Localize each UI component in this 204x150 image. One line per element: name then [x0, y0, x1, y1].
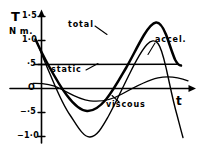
- curve-label-total: total: [68, 21, 94, 29]
- curve-label-viscous: viscous: [106, 101, 146, 109]
- y-tick-label-0p5: ·5: [27, 60, 36, 68]
- curve-label-accel: accel.: [155, 36, 187, 44]
- leader-accel: [148, 43, 155, 55]
- leader-total: [95, 26, 107, 35]
- y-axis-title: T: [11, 10, 20, 23]
- arrow-up-icon: [38, 10, 44, 17]
- torque-vs-time-chart: T N m. t 1·5 1·0 ·5 O −·5 −1·0 total acc…: [0, 0, 204, 150]
- y-tick-label-0: O: [28, 84, 35, 92]
- curve-label-static: static: [51, 66, 82, 74]
- arrow-right-icon: [189, 85, 197, 92]
- chart-canvas: [0, 0, 204, 150]
- y-tick-label-neg1p0: −1·0: [17, 132, 39, 140]
- y-tick-label-1p5: 1·5: [22, 12, 37, 20]
- x-axis-title: t: [176, 95, 182, 107]
- y-tick-label-1p0: 1·0: [22, 36, 37, 44]
- y-tick-label-neg0p5: −·5: [20, 108, 36, 116]
